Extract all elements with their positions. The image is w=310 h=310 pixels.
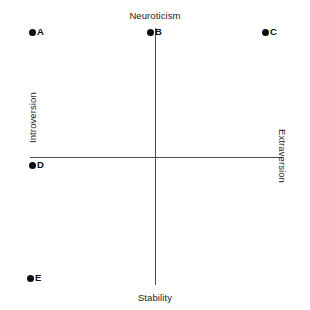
data-point-marker-icon [262, 29, 269, 36]
data-point-marker-icon [27, 275, 34, 282]
axis-label-stability: Stability [0, 292, 310, 303]
axis-label-neuroticism: Neuroticism [0, 10, 310, 21]
data-point-label: E [35, 272, 41, 283]
axis-label-introversion: Introversion [27, 92, 38, 143]
horizontal-axis-line [30, 157, 283, 158]
data-point-marker-icon [29, 29, 36, 36]
data-point-marker-icon [29, 162, 36, 169]
axis-label-extraversion: Extraversion [277, 129, 288, 183]
data-point-marker-icon [147, 29, 154, 36]
data-point-label: B [155, 26, 162, 37]
data-point-label: D [37, 159, 44, 170]
personality-quadrant-diagram: Neuroticism Stability Introversion Extra… [0, 0, 310, 310]
data-point-label: A [37, 26, 44, 37]
data-point-label: C [270, 26, 277, 37]
